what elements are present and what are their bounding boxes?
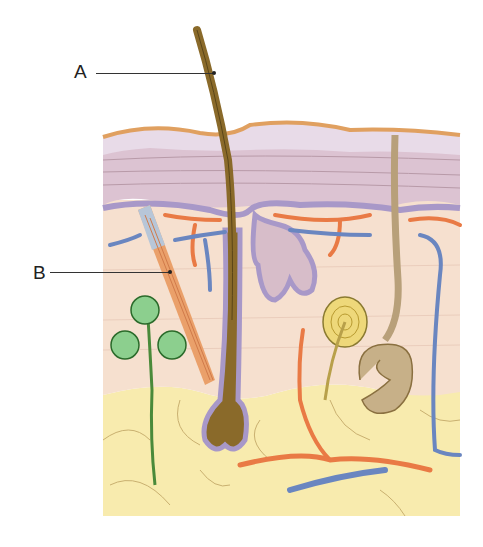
leader-dot-a	[212, 71, 216, 75]
leader-dot-b	[168, 270, 172, 274]
epidermis-layer	[103, 122, 460, 210]
label-a: A	[74, 62, 87, 81]
subcutaneous-fat-layer	[103, 384, 460, 516]
leader-line-b	[50, 272, 170, 273]
label-b: B	[33, 263, 46, 282]
skin-cross-section-diagram	[0, 0, 483, 547]
leader-line-a	[96, 73, 214, 74]
